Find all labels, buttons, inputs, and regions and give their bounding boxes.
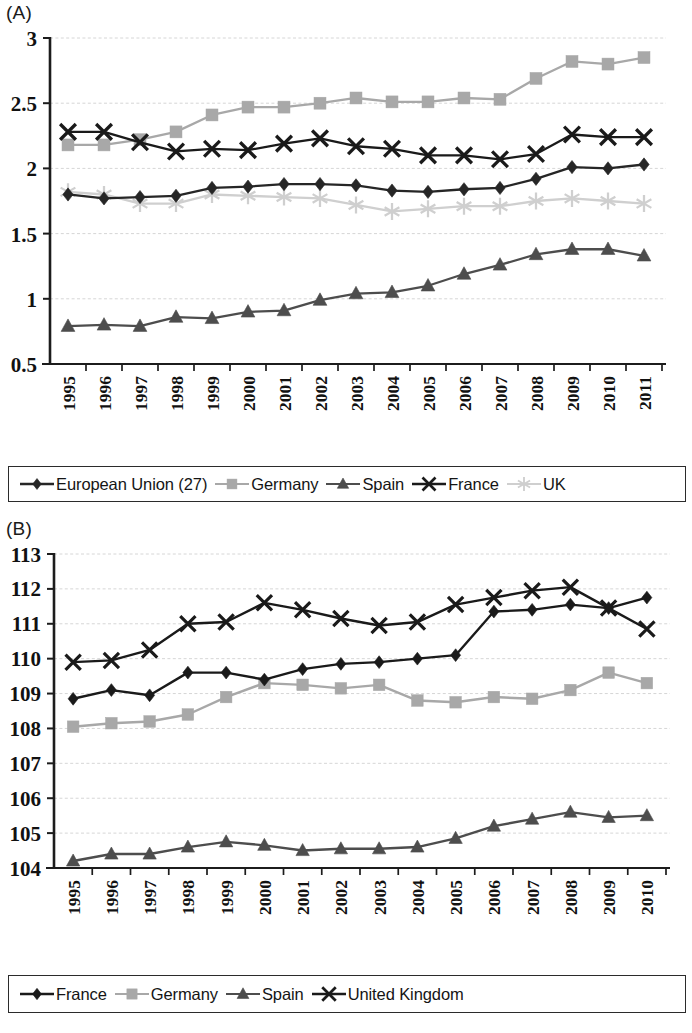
asterisk-marker-icon [506, 475, 542, 493]
diamond-marker-icon [19, 475, 55, 493]
panel-b-plot: 1041051061071081091101111121131995199619… [0, 542, 692, 960]
svg-text:2002: 2002 [331, 880, 351, 915]
legend-item[interactable]: Spain [225, 985, 304, 1004]
svg-text:112: 112 [11, 577, 41, 601]
svg-text:2000: 2000 [239, 376, 259, 411]
legend-label: France [56, 985, 107, 1004]
svg-text:104: 104 [10, 857, 42, 881]
svg-text:1: 1 [27, 288, 38, 312]
svg-text:110: 110 [11, 647, 41, 671]
svg-text:106: 106 [10, 787, 42, 811]
svg-text:105: 105 [10, 822, 42, 846]
triangle-marker-icon [325, 475, 361, 493]
svg-text:2008: 2008 [527, 376, 547, 411]
legend-item[interactable]: United Kingdom [311, 985, 464, 1004]
svg-text:2001: 2001 [293, 880, 313, 915]
legend-item[interactable]: Germany [114, 985, 218, 1004]
chart-a-legend: European Union (27)GermanySpainFranceUK [8, 466, 686, 502]
svg-text:1998: 1998 [167, 376, 187, 411]
legend-label: UK [543, 475, 566, 494]
cross-marker-icon [311, 985, 347, 1003]
triangle-marker-icon [225, 985, 261, 1003]
panel-a: (A) 0.511.522.53199519961997199819992000… [0, 0, 692, 516]
legend-item[interactable]: Germany [214, 475, 318, 494]
svg-text:1996: 1996 [102, 880, 122, 915]
svg-text:109: 109 [10, 682, 42, 706]
legend-item[interactable]: France [411, 475, 499, 494]
svg-text:1997: 1997 [131, 376, 151, 411]
legend-label: France [448, 475, 499, 494]
svg-text:2: 2 [27, 157, 38, 181]
panel-b: (B) 104105106107108109110111112113199519… [0, 516, 692, 1033]
panel-a-plot: 0.511.522.531995199619971998199920002001… [0, 28, 692, 460]
diamond-marker-icon [19, 985, 55, 1003]
svg-text:1998: 1998 [178, 880, 198, 915]
legend-item[interactable]: Spain [325, 475, 404, 494]
svg-text:2005: 2005 [419, 376, 439, 411]
svg-text:2006: 2006 [455, 376, 475, 411]
svg-text:1996: 1996 [95, 376, 115, 411]
svg-text:2009: 2009 [563, 376, 583, 411]
svg-text:2005: 2005 [446, 880, 466, 915]
figure-root: (A) 0.511.522.53199519961997199819992000… [0, 0, 692, 1033]
svg-text:2011: 2011 [635, 376, 655, 410]
svg-text:2009: 2009 [599, 880, 619, 915]
panel-b-label: (B) [6, 518, 32, 540]
svg-text:107: 107 [10, 752, 42, 776]
svg-text:3: 3 [27, 28, 38, 51]
svg-text:1995: 1995 [59, 376, 79, 411]
legend-label: Spain [262, 985, 304, 1004]
svg-text:2007: 2007 [523, 880, 543, 915]
legend-label: United Kingdom [348, 985, 464, 1004]
svg-text:2010: 2010 [637, 880, 657, 915]
chart-b-svg: 1041051061071081091101111121131995199619… [0, 542, 692, 960]
svg-text:2003: 2003 [347, 376, 367, 411]
svg-text:2007: 2007 [491, 376, 511, 411]
svg-text:1.5: 1.5 [11, 223, 37, 247]
svg-text:2.5: 2.5 [11, 92, 37, 116]
chart-a-svg: 0.511.522.531995199619971998199920002001… [0, 28, 692, 460]
legend-label: Germany [151, 985, 218, 1004]
svg-text:108: 108 [10, 717, 42, 741]
svg-text:2004: 2004 [408, 880, 428, 915]
svg-text:2003: 2003 [370, 880, 390, 915]
svg-text:113: 113 [11, 543, 41, 567]
svg-text:111: 111 [12, 612, 41, 636]
panel-a-label: (A) [6, 2, 32, 24]
legend-item[interactable]: European Union (27) [19, 475, 207, 494]
chart-b-legend: FranceGermanySpainUnited Kingdom [8, 975, 686, 1013]
svg-text:2006: 2006 [484, 880, 504, 915]
legend-label: Germany [251, 475, 318, 494]
square-marker-icon [114, 985, 150, 1003]
legend-item[interactable]: France [19, 985, 107, 1004]
svg-text:1999: 1999 [203, 376, 223, 411]
legend-label: European Union (27) [56, 475, 207, 494]
svg-text:2004: 2004 [383, 376, 403, 411]
legend-item[interactable]: UK [506, 475, 566, 494]
cross-marker-icon [411, 475, 447, 493]
svg-text:1999: 1999 [217, 880, 237, 915]
svg-text:1995: 1995 [64, 880, 84, 915]
square-marker-icon [214, 475, 250, 493]
svg-text:0.5: 0.5 [11, 353, 37, 377]
svg-text:2010: 2010 [599, 376, 619, 411]
svg-text:2001: 2001 [275, 376, 295, 411]
svg-text:2002: 2002 [311, 376, 331, 411]
svg-text:2000: 2000 [255, 880, 275, 915]
legend-label: Spain [362, 475, 404, 494]
svg-text:2008: 2008 [561, 880, 581, 915]
svg-text:1997: 1997 [140, 880, 160, 915]
